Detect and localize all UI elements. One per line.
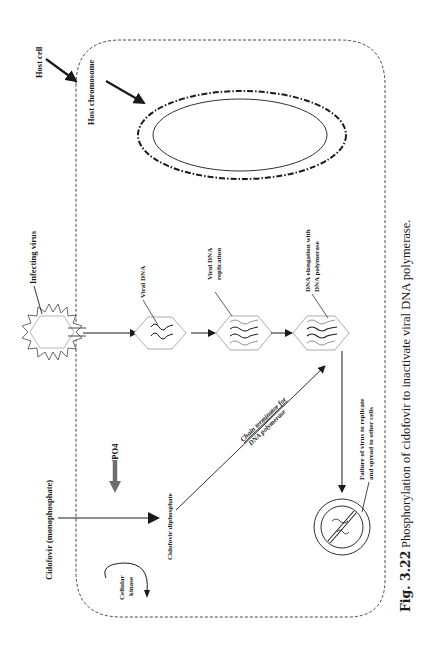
viral-dna-node: Viral DNA xyxy=(134,266,186,349)
svg-text:DNA polymerase: DNA polymerase xyxy=(313,241,321,292)
host-cell-label: Host cell xyxy=(34,46,76,81)
host-chromosome-label: Host chromosome xyxy=(86,60,144,125)
figure-canvas: Host cell Host chromosome Infecting viru… xyxy=(0,0,423,648)
svg-text:'PO4: 'PO4 xyxy=(110,443,120,462)
host-cell-pointer-arrow xyxy=(46,59,76,81)
chain-terminator: Chain terminator for DNA polymerase xyxy=(176,366,325,510)
svg-text:Infecting virus: Infecting virus xyxy=(28,230,38,284)
figure-caption: Fig. 3.22 Phosphorylation of cidofovir t… xyxy=(398,220,413,612)
svg-text:Failure of virus to replicate: Failure of virus to replicate xyxy=(358,399,366,480)
failure-label: Failure of virus to replicate and spread… xyxy=(358,399,375,512)
svg-text:Viral DNA: Viral DNA xyxy=(139,266,147,298)
svg-text:Phosphorylation of cidofovir t: Phosphorylation of cidofovir to inactiva… xyxy=(399,220,413,548)
svg-text:Host chromosome: Host chromosome xyxy=(86,60,96,125)
cellular-kinase: Cellular kinase xyxy=(105,563,150,600)
cidofovir-monophosphate: Cidofovir (monophosphate) xyxy=(44,480,158,580)
po4-label: 'PO4 xyxy=(110,443,120,487)
svg-text:Cidofovir diphosphate: Cidofovir diphosphate xyxy=(166,493,174,560)
dna-elongation-node: DNA elongation with DNA polymerase xyxy=(293,229,349,350)
viral-dna-replication-node: Viral DNA replication xyxy=(206,248,272,350)
svg-text:Cellular: Cellular xyxy=(118,576,126,601)
svg-text:DNA elongation with: DNA elongation with xyxy=(304,229,312,292)
svg-text:Cidofovir (monophosphate): Cidofovir (monophosphate) xyxy=(44,480,54,580)
host-chromosome xyxy=(138,91,346,179)
virus-spikes xyxy=(22,304,82,360)
svg-text:Viral DNA: Viral DNA xyxy=(206,248,214,280)
svg-text:and spread to other cells: and spread to other cells xyxy=(367,407,375,480)
no-replication-icon xyxy=(314,499,370,555)
svg-text:Fig. 3.22: Fig. 3.22 xyxy=(398,550,413,612)
cidofovir-diphosphate: Cidofovir diphosphate xyxy=(166,493,174,560)
host-chromosome-pointer-arrow xyxy=(106,81,144,103)
svg-text:replication: replication xyxy=(215,248,223,280)
svg-text:Host cell: Host cell xyxy=(34,46,44,78)
svg-text:kinase: kinase xyxy=(127,577,135,596)
infecting-virus: Infecting virus xyxy=(22,230,82,360)
